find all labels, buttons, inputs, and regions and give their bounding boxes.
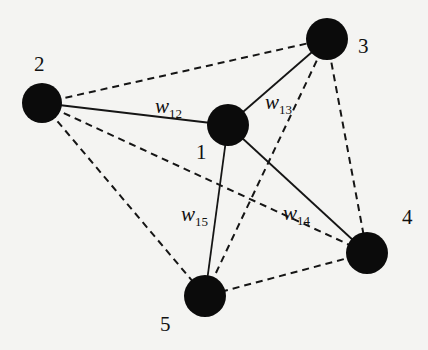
nodes-group: [22, 18, 388, 317]
node-2: [22, 83, 62, 123]
node-label-5: 5: [160, 312, 171, 336]
edge-2-3: [42, 39, 327, 103]
node-5: [184, 275, 226, 317]
node-label-1: 1: [196, 140, 207, 164]
graph-diagram: w12w13w14w1512345: [0, 0, 428, 350]
node-3: [306, 18, 348, 60]
edge-weight-label-14: w14: [283, 201, 311, 228]
node-1: [207, 104, 249, 146]
edge-weight-label-15: w15: [181, 202, 208, 229]
edge-2-4: [42, 103, 367, 253]
edge-1-4: [228, 125, 367, 253]
edge-2-5: [42, 103, 205, 296]
edge-weight-label-13: w13: [265, 90, 292, 117]
node-label-2: 2: [34, 52, 45, 76]
edge-weight-label-12: w12: [155, 94, 182, 121]
node-4: [346, 232, 388, 274]
edge-3-5: [205, 39, 327, 296]
edges-group: [42, 39, 367, 296]
edge-1-2: [42, 103, 228, 125]
edge-4-5: [205, 253, 367, 296]
node-label-3: 3: [358, 34, 369, 58]
node-label-4: 4: [402, 205, 413, 229]
